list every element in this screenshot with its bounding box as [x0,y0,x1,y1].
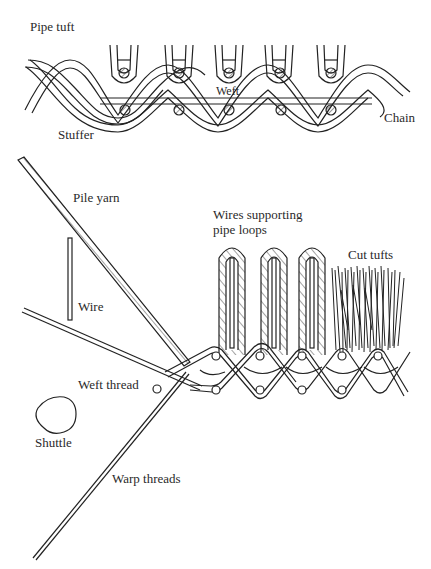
supporting-loop [261,248,287,355]
label-weft-thread: Weft thread [78,378,139,393]
cut-tufts [332,266,404,352]
label-wires-supporting-2: pipe loops [213,223,267,238]
label-cut-tufts: Cut tufts [348,248,393,263]
label-shuttle: Shuttle [35,436,72,451]
label-stuffer: Stuffer [58,128,94,143]
label-pile-yarn: Pile yarn [73,191,120,206]
weft-thread-circle [153,385,161,393]
shuttle-shape [36,397,76,434]
wire [68,238,72,320]
pile-yarn [18,157,190,366]
label-wires-supporting-1: Wires supporting [213,208,302,223]
supporting-loop [219,248,245,355]
label-warp-threads: Warp threads [112,472,181,487]
label-wire: Wire [78,300,103,315]
weft-circles-lower [120,105,336,115]
supporting-loop [299,248,325,355]
label-pipe-tuft: Pipe tuft [30,20,74,35]
label-weft: Weft [216,85,239,99]
weft-circles-upper [119,68,336,78]
wires-supporting-loops [219,248,325,355]
label-chain: Chain [384,111,415,126]
